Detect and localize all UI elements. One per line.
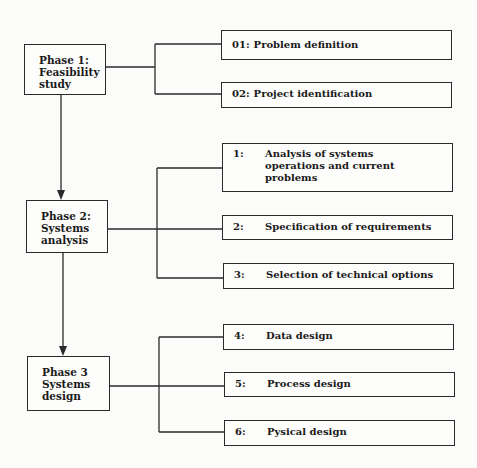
step-label: Process design bbox=[267, 378, 351, 396]
phase-2-box: Phase 2: Systems analysis bbox=[26, 200, 108, 253]
step-number: 2: bbox=[233, 221, 265, 239]
phase-2-name-line2: analysis bbox=[41, 234, 107, 246]
phase-2-name-line1: Systems bbox=[41, 222, 107, 234]
step-number: 1: bbox=[233, 148, 265, 191]
step-box-02: 02: Project identification bbox=[221, 82, 452, 108]
step-box-4: 4: Data design bbox=[223, 324, 454, 350]
step-number: 4: bbox=[234, 330, 266, 349]
step-number: 02: bbox=[232, 88, 250, 107]
phase-3-name-line2: design bbox=[42, 390, 109, 402]
phase-1-title: Phase 1: bbox=[39, 54, 105, 66]
step-box-5: 5: Process design bbox=[224, 372, 455, 397]
step-box-2: 2: Specification of requirements bbox=[222, 215, 453, 240]
step-label: Pysical design bbox=[267, 426, 347, 445]
phase-1-box: Phase 1: Feasibility study bbox=[24, 44, 106, 95]
arrow-head-icon bbox=[57, 190, 65, 200]
step-number: 3: bbox=[234, 269, 266, 288]
phase-3-box: Phase 3 Systems design bbox=[27, 356, 110, 411]
phase-1-name-line1: Feasibility bbox=[39, 66, 105, 78]
phase-3-title: Phase 3 bbox=[42, 366, 109, 378]
step-label: Specification of requirements bbox=[265, 221, 431, 239]
step-box-01: 01: Problem definition bbox=[221, 30, 452, 60]
step-label: Analysis of systems operations and curre… bbox=[265, 148, 395, 191]
phase-2-title: Phase 2: bbox=[41, 210, 107, 222]
step-label: Problem definition bbox=[254, 39, 359, 59]
step-box-3: 3: Selection of technical options bbox=[223, 263, 454, 289]
step-number: 01: bbox=[232, 39, 250, 59]
step-label: Selection of technical options bbox=[266, 269, 433, 288]
step-box-1: 1: Analysis of systems operations and cu… bbox=[222, 143, 453, 192]
arrow-head-icon bbox=[59, 346, 67, 356]
step-number: 6: bbox=[235, 426, 267, 445]
step-box-6: 6: Pysical design bbox=[224, 420, 455, 446]
step-label: Project identification bbox=[254, 88, 373, 107]
step-number: 5: bbox=[235, 378, 267, 396]
step-label: Data design bbox=[266, 330, 333, 349]
phase-1-name-line2: study bbox=[39, 78, 105, 90]
phase-3-name-line1: Systems bbox=[42, 378, 109, 390]
